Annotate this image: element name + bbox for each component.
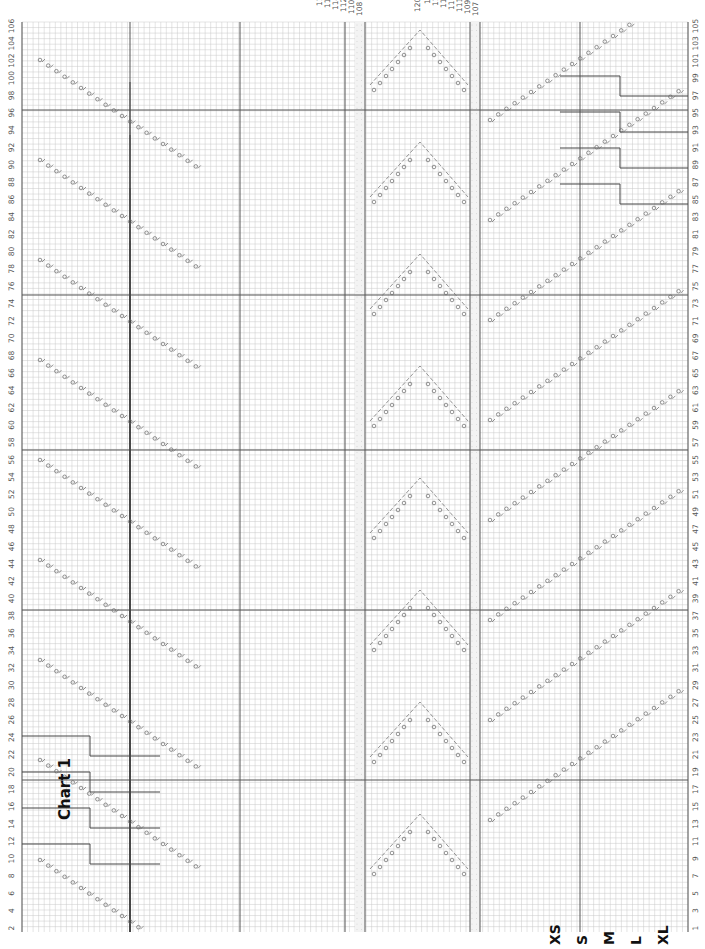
row-label: 19 [691, 767, 700, 777]
row-label: 37 [691, 611, 700, 621]
size-labels: XSSMLXL [547, 924, 671, 945]
row-label: 48 [7, 524, 16, 534]
row-label: 73 [691, 299, 700, 309]
row-label: 116 [323, 0, 332, 8]
knitting-chart: 1061041021009896949290888684828078767472… [0, 0, 705, 949]
row-label: 24 [7, 732, 16, 742]
row-label: 100 [7, 71, 16, 86]
row-label: 9 [691, 856, 700, 861]
row-label: 4 [7, 908, 16, 913]
row-label: 41 [691, 576, 700, 586]
row-label: 25 [691, 715, 700, 725]
size-label-xl: XL [655, 925, 671, 945]
row-label: 50 [7, 507, 16, 517]
row-label: 42 [7, 576, 16, 586]
row-label: 6 [7, 891, 16, 896]
row-label: 20 [7, 767, 16, 777]
row-label: 44 [7, 559, 16, 569]
row-label: 108 [355, 1, 364, 16]
row-label: 72 [7, 316, 16, 326]
row-label: 29 [691, 680, 700, 690]
row-label: 5 [691, 891, 700, 896]
row-label: 101 [691, 53, 700, 68]
row-label: 105 [691, 19, 700, 34]
row-label: 43 [691, 559, 700, 569]
row-label: 96 [7, 108, 16, 118]
row-label: 69 [691, 333, 700, 343]
row-label: 65 [691, 368, 700, 378]
size-label-m: M [601, 931, 617, 945]
row-label: 80 [7, 247, 16, 257]
row-label: 89 [691, 160, 700, 170]
row-label: 110 [347, 0, 356, 14]
row-label: 98 [7, 90, 16, 100]
row-label: 90 [7, 160, 16, 170]
row-label: 113 [447, 0, 456, 10]
row-label: 52 [7, 489, 16, 499]
row-label: 93 [691, 125, 700, 135]
row-label: 31 [691, 663, 700, 673]
row-label: 106 [7, 19, 16, 34]
row-label: 53 [691, 472, 700, 482]
row-label: 7 [691, 873, 700, 878]
row-label: 102 [7, 53, 16, 68]
row-label: 21 [691, 750, 700, 760]
row-label: 35 [691, 628, 700, 638]
row-label: 1 [691, 925, 700, 930]
row-label: 10 [7, 854, 16, 864]
row-label: 2 [7, 925, 16, 930]
size-label-s: S [574, 935, 590, 945]
row-label-peak: 120 [413, 0, 422, 12]
row-label: 85 [691, 194, 700, 204]
row-label: 70 [7, 333, 16, 343]
row-label: 49 [691, 507, 700, 517]
row-label: 26 [7, 715, 16, 725]
row-label: 11 [691, 836, 700, 846]
row-label: 91 [691, 142, 700, 152]
row-label: 86 [7, 194, 16, 204]
row-label: 77 [691, 264, 700, 274]
row-label: 62 [7, 403, 16, 413]
row-label: 119 [423, 0, 432, 4]
row-label: 59 [691, 420, 700, 430]
row-label: 94 [7, 125, 16, 135]
row-label: 13 [691, 819, 700, 829]
row-label: 22 [7, 750, 16, 760]
size-label-xs: XS [547, 924, 563, 945]
row-label: 115 [439, 0, 448, 8]
row-label: 109 [463, 0, 472, 14]
row-label: 84 [7, 212, 16, 222]
row-label: 45 [691, 541, 700, 551]
row-label: 66 [7, 368, 16, 378]
row-label: 87 [691, 177, 700, 187]
row-label: 34 [7, 645, 16, 655]
row-label: 30 [7, 680, 16, 690]
row-label: 18 [7, 784, 16, 794]
row-label: 16 [7, 802, 16, 812]
row-label: 82 [7, 229, 16, 239]
row-label: 28 [7, 698, 16, 708]
row-label: 46 [7, 541, 16, 551]
row-label: 38 [7, 611, 16, 621]
row-label: 95 [691, 108, 700, 118]
row-label: 107 [471, 1, 480, 16]
row-label: 60 [7, 420, 16, 430]
row-label: 47 [691, 524, 700, 534]
row-label: 92 [7, 142, 16, 152]
row-label: 54 [7, 472, 16, 482]
row-label: 78 [7, 264, 16, 274]
row-label: 55 [691, 455, 700, 465]
row-label: 23 [691, 732, 700, 742]
row-label: 12 [7, 836, 16, 846]
row-label: 15 [691, 802, 700, 812]
row-label: 17 [691, 784, 700, 794]
row-label: 40 [7, 593, 16, 603]
row-label: 118 [315, 0, 324, 6]
row-label: 97 [691, 90, 700, 100]
row-label: 99 [691, 73, 700, 83]
row-label: 79 [691, 247, 700, 257]
row-label: 117 [431, 0, 440, 6]
row-label: 68 [7, 351, 16, 361]
row-label: 81 [691, 229, 700, 239]
row-label: 71 [691, 316, 700, 326]
